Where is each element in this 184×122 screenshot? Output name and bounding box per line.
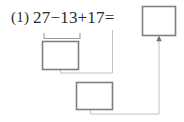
step-1-answer-box[interactable] <box>43 42 79 70</box>
problem-expression: 27−13+17= <box>33 8 115 28</box>
step-2-answer-box[interactable] <box>77 83 113 110</box>
worksheet-canvas: (1) 27−13+17= <box>0 0 184 122</box>
grouping-bracket-27-minus-13 <box>44 33 80 39</box>
problem-number-label: (1) <box>11 9 29 26</box>
final-answer-box[interactable] <box>143 7 176 36</box>
arrowhead-up-icon <box>156 36 161 42</box>
